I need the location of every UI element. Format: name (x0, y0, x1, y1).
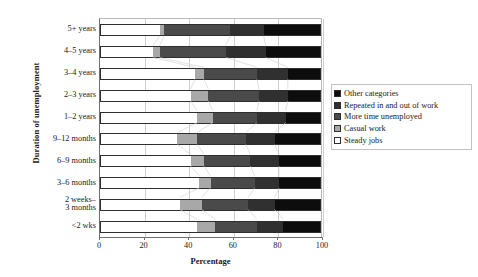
bar-segment-steady-jobs (100, 24, 160, 36)
bar-segment-repeated-in-and-out-of-work (257, 221, 284, 233)
bar-segment-more-time-unemployed (164, 24, 230, 36)
x-tick-mark (322, 237, 323, 240)
legend-label: Casual work (344, 124, 386, 133)
x-tick-mark (277, 237, 278, 240)
stacked-bar (100, 90, 321, 102)
legend-item: Casual work (334, 123, 468, 135)
legend-swatch-icon (334, 125, 341, 132)
bar-segment-more-time-unemployed (204, 155, 250, 167)
bar-segment-steady-jobs (100, 112, 197, 124)
stacked-bar (100, 199, 321, 211)
legend-swatch-icon (334, 113, 341, 120)
bar-row (100, 199, 321, 211)
bar-segment-other-categories (275, 199, 321, 211)
bar-row (100, 155, 321, 167)
legend-item: Steady jobs (334, 134, 468, 146)
legend-swatch-icon (334, 137, 341, 144)
bar-segment-casual-work (195, 68, 204, 80)
bar-segment-other-categories (283, 221, 321, 233)
legend-label: Steady jobs (344, 136, 383, 145)
bar-segment-steady-jobs (100, 155, 191, 167)
x-tick-label: 80 (262, 241, 292, 250)
bar-row (100, 46, 321, 58)
bar-segment-more-time-unemployed (211, 177, 255, 189)
gridline-100 (323, 19, 324, 237)
stacked-bar (100, 221, 321, 233)
bar-segment-repeated-in-and-out-of-work (230, 24, 263, 36)
y-tick-label: 2–3 years (0, 90, 96, 99)
stacked-bar-chart: Duration of unemployment 5+ years4–5 yea… (0, 0, 478, 277)
bar-segment-casual-work (191, 155, 204, 167)
bar-segment-casual-work (180, 199, 202, 211)
bar-segment-more-time-unemployed (197, 133, 246, 145)
bar-row (100, 221, 321, 233)
x-tick-mark (144, 237, 145, 240)
bar-segment-repeated-in-and-out-of-work (248, 199, 275, 211)
bar-segment-steady-jobs (100, 46, 153, 58)
plot-inner (100, 19, 321, 237)
bar-segment-other-categories (286, 112, 321, 124)
y-tick-label: 5+ years (0, 24, 96, 33)
legend-item: Repeated in and out of work (334, 100, 468, 112)
stacked-bar (100, 68, 321, 80)
stacked-bar (100, 24, 321, 36)
stacked-bar (100, 155, 321, 167)
bar-segment-casual-work (197, 112, 212, 124)
bar-segment-casual-work (199, 177, 210, 189)
bar-segment-repeated-in-and-out-of-work (226, 46, 266, 58)
bar-segment-other-categories (264, 24, 321, 36)
bar-row (100, 112, 321, 124)
bar-segment-steady-jobs (100, 177, 199, 189)
stacked-bar (100, 177, 321, 189)
bar-segment-other-categories (279, 177, 321, 189)
y-tick-label: <2 wks (0, 221, 96, 230)
x-tick-mark (188, 237, 189, 240)
bar-row (100, 177, 321, 189)
legend-swatch-icon (334, 90, 341, 97)
bar-segment-repeated-in-and-out-of-work (257, 68, 288, 80)
x-tick-label: 0 (84, 241, 114, 250)
bar-segment-steady-jobs (100, 221, 197, 233)
bar-segment-repeated-in-and-out-of-work (259, 90, 288, 102)
bar-segment-casual-work (153, 46, 160, 58)
stacked-bar (100, 112, 321, 124)
x-axis-line (99, 237, 322, 238)
bar-segment-more-time-unemployed (215, 221, 257, 233)
y-tick-label: 3–4 years (0, 68, 96, 77)
bar-segment-more-time-unemployed (204, 68, 257, 80)
legend-item: More time unemployed (334, 111, 468, 123)
bar-segment-other-categories (288, 68, 321, 80)
bar-segment-more-time-unemployed (213, 112, 257, 124)
plot-area (99, 18, 322, 237)
legend: Other categoriesRepeated in and out of w… (331, 84, 472, 150)
y-tick-label: 4–5 years (0, 46, 96, 55)
bar-segment-more-time-unemployed (208, 90, 259, 102)
legend-label: Repeated in and out of work (344, 101, 438, 110)
bar-segment-other-categories (266, 46, 321, 58)
stacked-bar (100, 133, 321, 145)
bar-segment-more-time-unemployed (160, 46, 226, 58)
x-tick-label: 20 (129, 241, 159, 250)
bar-row (100, 24, 321, 36)
x-tick-mark (233, 237, 234, 240)
bar-segment-other-categories (279, 155, 321, 167)
y-tick-label: 9–12 months (0, 134, 96, 143)
x-tick-label: 40 (173, 241, 203, 250)
bar-segment-more-time-unemployed (202, 199, 248, 211)
bar-segment-steady-jobs (100, 68, 195, 80)
bar-segment-other-categories (288, 90, 321, 102)
bar-segment-steady-jobs (100, 90, 191, 102)
y-tick-label: 2 weeks–3 months (0, 196, 96, 213)
y-tick-label: 3–6 months (0, 178, 96, 187)
bar-segment-steady-jobs (100, 133, 177, 145)
bar-segment-repeated-in-and-out-of-work (246, 133, 275, 145)
y-tick-label: 6–9 months (0, 156, 96, 165)
x-tick-label: 100 (307, 241, 337, 250)
stacked-bar (100, 46, 321, 58)
bar-segment-repeated-in-and-out-of-work (257, 112, 286, 124)
bar-segment-repeated-in-and-out-of-work (255, 177, 279, 189)
legend-item: Other categories (334, 88, 468, 100)
legend-swatch-icon (334, 102, 341, 109)
bar-segment-casual-work (177, 133, 197, 145)
bar-segment-repeated-in-and-out-of-work (250, 155, 279, 167)
